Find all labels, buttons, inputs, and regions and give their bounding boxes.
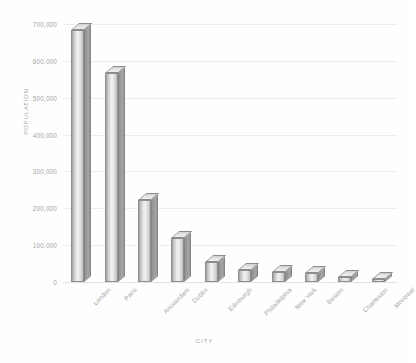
y-axis-tick-label: 200,000 xyxy=(33,205,57,212)
x-axis-tick-label: Boston xyxy=(325,286,344,305)
x-axis-tick-label: Edinburgh xyxy=(227,286,253,312)
x-axis-tick-label: Montreal xyxy=(393,286,416,309)
x-axis-tick-label: Dublin xyxy=(190,286,208,304)
bar-side-face xyxy=(84,24,91,282)
bar-side-face xyxy=(151,194,158,282)
bar-front-face xyxy=(272,272,285,282)
x-axis-tick-label: Philadelphia xyxy=(262,286,292,316)
bar xyxy=(205,262,218,282)
plot-area: 0100,000200,000300,000400,000500,000600,… xyxy=(63,24,397,282)
y-axis-tick-label: 300,000 xyxy=(33,168,57,175)
bar xyxy=(138,200,151,282)
bar-side-face xyxy=(184,232,191,282)
bar xyxy=(305,273,318,282)
y-axis-tick-label: 0 xyxy=(53,279,57,286)
bar xyxy=(171,238,184,282)
bar xyxy=(272,272,285,282)
x-axis-tick-label: New York xyxy=(293,286,318,311)
y-axis-tick-label: 400,000 xyxy=(33,131,57,138)
bar xyxy=(71,30,84,282)
bar-front-face xyxy=(372,279,385,282)
x-axis-tick-label: London xyxy=(91,286,111,306)
axis-baseline xyxy=(63,282,397,283)
y-axis-tick-label: 600,000 xyxy=(33,57,57,64)
bar xyxy=(338,277,351,282)
bar xyxy=(372,279,385,282)
bar xyxy=(238,270,251,282)
x-axis-tick-label: Charleston xyxy=(361,286,389,314)
bar-front-face xyxy=(71,30,84,282)
x-axis-tick-label: Paris xyxy=(123,286,139,302)
bar-front-face xyxy=(171,238,184,282)
y-axis-title: POPULATION xyxy=(22,67,29,157)
y-axis-tick-label: 700,000 xyxy=(33,21,57,28)
x-axis-tick-label: Amsterdam xyxy=(161,286,190,315)
bars-layer xyxy=(63,24,397,282)
y-axis-tick-label: 100,000 xyxy=(33,242,57,249)
x-axis-title: CITY xyxy=(0,337,409,344)
bar-front-face xyxy=(205,262,218,282)
bar xyxy=(105,73,118,282)
bar-front-face xyxy=(238,270,251,282)
bar-front-face xyxy=(305,273,318,282)
bar-front-face xyxy=(138,200,151,282)
bar-front-face xyxy=(338,277,351,282)
bar-front-face xyxy=(105,73,118,282)
y-axis-tick-label: 500,000 xyxy=(33,94,57,101)
bar-side-face xyxy=(118,67,125,282)
